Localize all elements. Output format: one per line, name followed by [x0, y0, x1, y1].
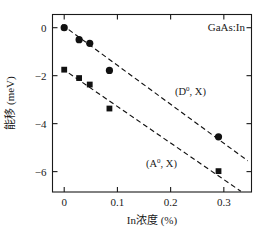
sample-annotation: GaAs:In — [208, 21, 246, 33]
series-label-a0x: (A0, X) — [146, 157, 177, 170]
data-point — [106, 67, 113, 74]
x-axis-tick-labels: 00.10.20.3 — [61, 196, 231, 208]
y-axis-tick-labels: 0−2−4−6 — [35, 22, 47, 178]
x-axis-label: In浓度 (%) — [127, 213, 178, 227]
data-point — [216, 168, 222, 174]
data-point — [61, 67, 67, 73]
data-point — [107, 106, 113, 112]
y-tick-label: −2 — [35, 70, 47, 82]
chart-figure: 00.10.20.3 0−2−4−6 (D0, X) (A0, X) GaAs:… — [0, 0, 260, 233]
x-tick-label: 0.3 — [217, 196, 231, 208]
data-point — [61, 24, 68, 31]
x-tick-label: 0.1 — [111, 196, 125, 208]
x-tick-label: 0 — [61, 196, 67, 208]
series-label-d0x: (D0, X) — [175, 85, 206, 98]
y-tick-label: −4 — [35, 118, 47, 130]
data-point-markers — [61, 24, 223, 174]
data-point — [86, 40, 93, 47]
data-point — [76, 75, 82, 81]
data-point — [87, 82, 93, 88]
data-point — [76, 36, 83, 43]
y-axis-ticks — [53, 28, 252, 172]
y-axis-label: 能移 (meV) — [3, 76, 17, 130]
x-tick-label: 0.2 — [164, 196, 178, 208]
y-tick-label: −6 — [35, 166, 47, 178]
y-tick-label: 0 — [41, 22, 47, 34]
scatter-plot: 00.10.20.3 0−2−4−6 (D0, X) (A0, X) GaAs:… — [0, 0, 260, 233]
data-point — [215, 133, 222, 140]
